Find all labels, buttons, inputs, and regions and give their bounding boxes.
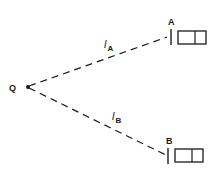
path-label-b: lB xyxy=(112,110,121,125)
diagram-canvas: Q lA lB A B xyxy=(0,0,221,177)
receiver-a: A xyxy=(168,17,206,45)
path-line-a xyxy=(29,37,167,86)
receiver-b-label: B xyxy=(166,136,173,146)
path-line-b xyxy=(29,88,166,155)
receiver-a-box xyxy=(178,31,206,44)
receiver-b: B xyxy=(166,136,203,164)
receiver-a-label: A xyxy=(168,17,175,27)
receiver-b-box xyxy=(175,149,203,162)
point-q-label: Q xyxy=(9,83,16,93)
path-label-a: lA xyxy=(104,38,113,53)
